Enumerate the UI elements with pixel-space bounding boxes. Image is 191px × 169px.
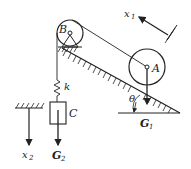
spring-k: [54, 33, 60, 102]
label-g1-sub: 1: [149, 123, 153, 131]
label-x2: x: [22, 149, 28, 160]
label-a: A: [151, 62, 160, 75]
label-x1: x: [124, 8, 130, 19]
label-theta: θ: [129, 93, 135, 104]
label-c: C: [69, 107, 78, 120]
label-g2-sub: 2: [60, 155, 66, 163]
label-g2: G: [52, 149, 61, 162]
mechanics-diagram: B A k C θ x 1 x 2 G 1 G 2: [0, 0, 191, 169]
x2-axis: [15, 103, 44, 145]
diagram-svg: B A k C θ x 1 x 2 G 1 G 2: [0, 0, 191, 169]
label-x1-sub: 1: [131, 13, 135, 21]
label-k: k: [64, 81, 70, 92]
x1-axis: [139, 17, 177, 43]
label-b: B: [58, 23, 67, 36]
label-x2-sub: 2: [28, 154, 34, 162]
label-g1: G: [140, 117, 149, 130]
